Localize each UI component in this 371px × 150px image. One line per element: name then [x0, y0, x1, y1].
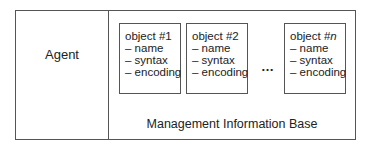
agent-label: Agent	[16, 47, 108, 62]
agent-cell: Agent	[16, 11, 109, 139]
object-title: object #n	[290, 30, 345, 42]
object-attribute-syntax: – syntax	[192, 54, 247, 66]
object-attribute-name: – name	[192, 42, 247, 54]
object-attribute-syntax: – syntax	[290, 54, 345, 66]
object-attribute-name: – name	[290, 42, 345, 54]
object-attribute-name: – name	[125, 42, 180, 54]
mib-object-n: object #n – name – syntax – encoding	[284, 23, 346, 94]
object-title: object #2	[192, 30, 247, 42]
object-attribute-encoding: – encoding	[290, 66, 345, 78]
object-title: object #1	[125, 30, 180, 42]
agent-mib-container: Agent object #1 – name – syntax – encodi…	[15, 10, 356, 140]
object-attribute-syntax: – syntax	[125, 54, 180, 66]
mib-object-1: object #1 – name – syntax – encoding	[119, 23, 181, 94]
mib-label: Management Information Base	[109, 117, 355, 131]
mib-object-2: object #2 – name – syntax – encoding	[186, 23, 248, 94]
ellipsis-dots: …	[257, 59, 279, 74]
object-attribute-encoding: – encoding	[192, 66, 247, 78]
object-attribute-encoding: – encoding	[125, 66, 180, 78]
